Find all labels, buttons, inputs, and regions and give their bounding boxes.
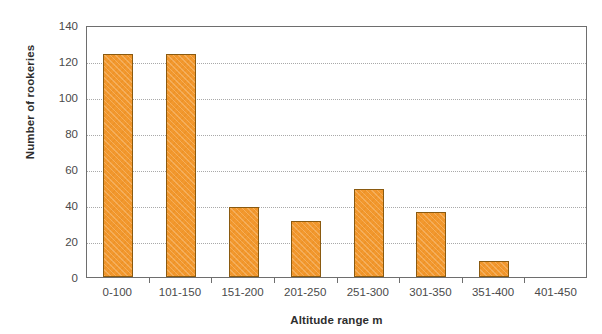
bar: [354, 189, 384, 277]
y-axis-tick-labels: 020406080100120140: [0, 0, 86, 334]
bar: [103, 54, 133, 277]
x-axis-tick-label: 301-350: [409, 286, 451, 298]
x-axis-tick: [524, 278, 525, 283]
bar: [166, 54, 196, 277]
x-axis-tick: [399, 278, 400, 283]
y-axis-tick-label: 0: [30, 272, 78, 284]
x-axis-tick-label: 201-250: [284, 286, 326, 298]
x-axis-tick: [274, 278, 275, 283]
plot-area: [86, 26, 587, 278]
x-axis-title: Altitude range m: [86, 314, 587, 326]
y-axis-tick-label: 100: [30, 92, 78, 104]
bar: [479, 261, 509, 277]
y-axis-tick-label: 40: [30, 200, 78, 212]
x-axis-tick-label: 151-200: [221, 286, 263, 298]
x-axis-tick-label: 251-300: [347, 286, 389, 298]
bar: [291, 221, 321, 277]
y-axis-tick-label: 20: [30, 236, 78, 248]
x-axis-tick: [211, 278, 212, 283]
x-axis-tick: [149, 278, 150, 283]
x-axis-tick: [462, 278, 463, 283]
bar: [416, 212, 446, 277]
y-axis-tick-label: 60: [30, 164, 78, 176]
bar: [229, 207, 259, 277]
x-axis-tick: [337, 278, 338, 283]
y-axis-tick-label: 80: [30, 128, 78, 140]
x-axis-tick-label: 351-400: [472, 286, 514, 298]
y-axis-tick-label: 140: [30, 20, 78, 32]
x-axis-tick-label: 0-100: [103, 286, 132, 298]
x-axis-tick-label: 401-450: [535, 286, 577, 298]
y-axis-tick-label: 120: [30, 56, 78, 68]
bar-chart: Number of rookeries 020406080100120140 0…: [0, 0, 602, 334]
x-axis-tick-label: 101-150: [159, 286, 201, 298]
bars-layer: [87, 27, 586, 277]
